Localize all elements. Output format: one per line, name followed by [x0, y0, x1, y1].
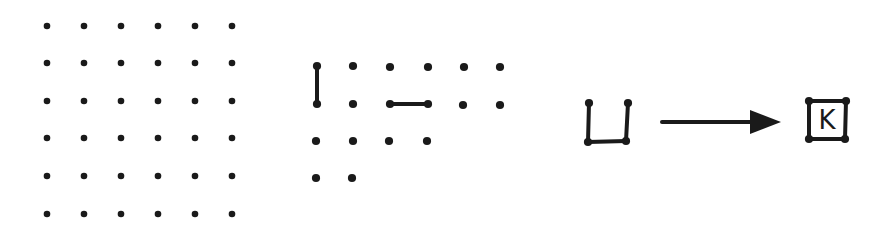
- grid-dot: [841, 135, 849, 143]
- move-examples-grid: [312, 62, 504, 182]
- grid-dot: [192, 23, 199, 30]
- grid-dot: [585, 99, 593, 107]
- grid-dot: [229, 211, 236, 218]
- grid-dot: [44, 211, 51, 218]
- grid-dot: [118, 23, 125, 30]
- grid-dot: [348, 174, 356, 182]
- grid-dot: [229, 135, 236, 142]
- grid-dot: [229, 60, 236, 67]
- grid-dot: [842, 97, 850, 105]
- player-initial-label: K: [818, 105, 836, 135]
- grid-dot: [624, 99, 632, 107]
- grid-dot: [192, 60, 199, 67]
- grid-dot: [229, 23, 236, 30]
- grid-dot: [349, 100, 357, 108]
- grid-dot: [349, 137, 357, 145]
- grid-dot: [155, 98, 162, 105]
- grid-dot: [44, 173, 51, 180]
- grid-dot: [424, 100, 432, 108]
- grid-dot: [81, 211, 88, 218]
- grid-dot: [44, 23, 51, 30]
- grid-dot: [386, 100, 394, 108]
- grid-dot: [155, 23, 162, 30]
- full-dot-grid: [44, 23, 236, 218]
- grid-dot: [496, 63, 504, 71]
- grid-dot: [805, 135, 813, 143]
- grid-dot: [155, 135, 162, 142]
- grid-dot: [118, 211, 125, 218]
- grid-dot: [118, 60, 125, 67]
- grid-dot: [424, 63, 432, 71]
- drawn-line: [845, 101, 846, 139]
- grid-dot: [349, 62, 357, 70]
- arrow-icon: [662, 110, 781, 134]
- drawn-line: [626, 103, 628, 141]
- drawn-line: [588, 141, 626, 142]
- grid-dot: [229, 98, 236, 105]
- grid-dot: [496, 101, 504, 109]
- three-sided-box: [584, 99, 632, 146]
- dots-and-boxes-diagram: K: [0, 0, 896, 229]
- grid-dot: [313, 100, 321, 108]
- grid-dot: [423, 137, 431, 145]
- grid-dot: [155, 173, 162, 180]
- grid-dot: [622, 137, 630, 145]
- drawn-line: [588, 103, 589, 142]
- grid-dot: [81, 98, 88, 105]
- grid-dot: [155, 60, 162, 67]
- grid-dot: [805, 97, 813, 105]
- completed-box: K: [805, 97, 850, 143]
- grid-dot: [118, 173, 125, 180]
- grid-dot: [313, 62, 321, 70]
- grid-dot: [81, 135, 88, 142]
- grid-dot: [118, 135, 125, 142]
- grid-dot: [312, 174, 320, 182]
- grid-dot: [312, 137, 320, 145]
- grid-dot: [584, 138, 592, 146]
- grid-dot: [459, 101, 467, 109]
- grid-dot: [192, 211, 199, 218]
- grid-dot: [44, 135, 51, 142]
- grid-dot: [81, 60, 88, 67]
- grid-dot: [81, 173, 88, 180]
- grid-dot: [192, 135, 199, 142]
- grid-dot: [44, 60, 51, 67]
- grid-dot: [44, 98, 51, 105]
- arrow-head: [750, 110, 781, 134]
- grid-dot: [460, 63, 468, 71]
- grid-dot: [81, 23, 88, 30]
- grid-dot: [385, 137, 393, 145]
- grid-dot: [155, 211, 162, 218]
- grid-dot: [192, 98, 199, 105]
- grid-dot: [192, 173, 199, 180]
- grid-dot: [229, 173, 236, 180]
- grid-dot: [118, 98, 125, 105]
- grid-dot: [386, 63, 394, 71]
